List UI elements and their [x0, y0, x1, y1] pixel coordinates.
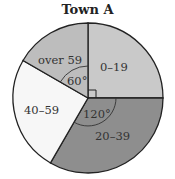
label-20-39: 20–39 [95, 129, 130, 143]
label-over-59: over 59 [38, 53, 82, 67]
pie-chart: 0–19 20–39 40–59 over 59 60° 120° [0, 0, 175, 179]
label-angle-120: 120° [83, 107, 111, 121]
label-40-59: 40–59 [24, 103, 59, 117]
label-angle-60: 60° [67, 74, 87, 88]
label-0-19: 0–19 [100, 60, 128, 74]
